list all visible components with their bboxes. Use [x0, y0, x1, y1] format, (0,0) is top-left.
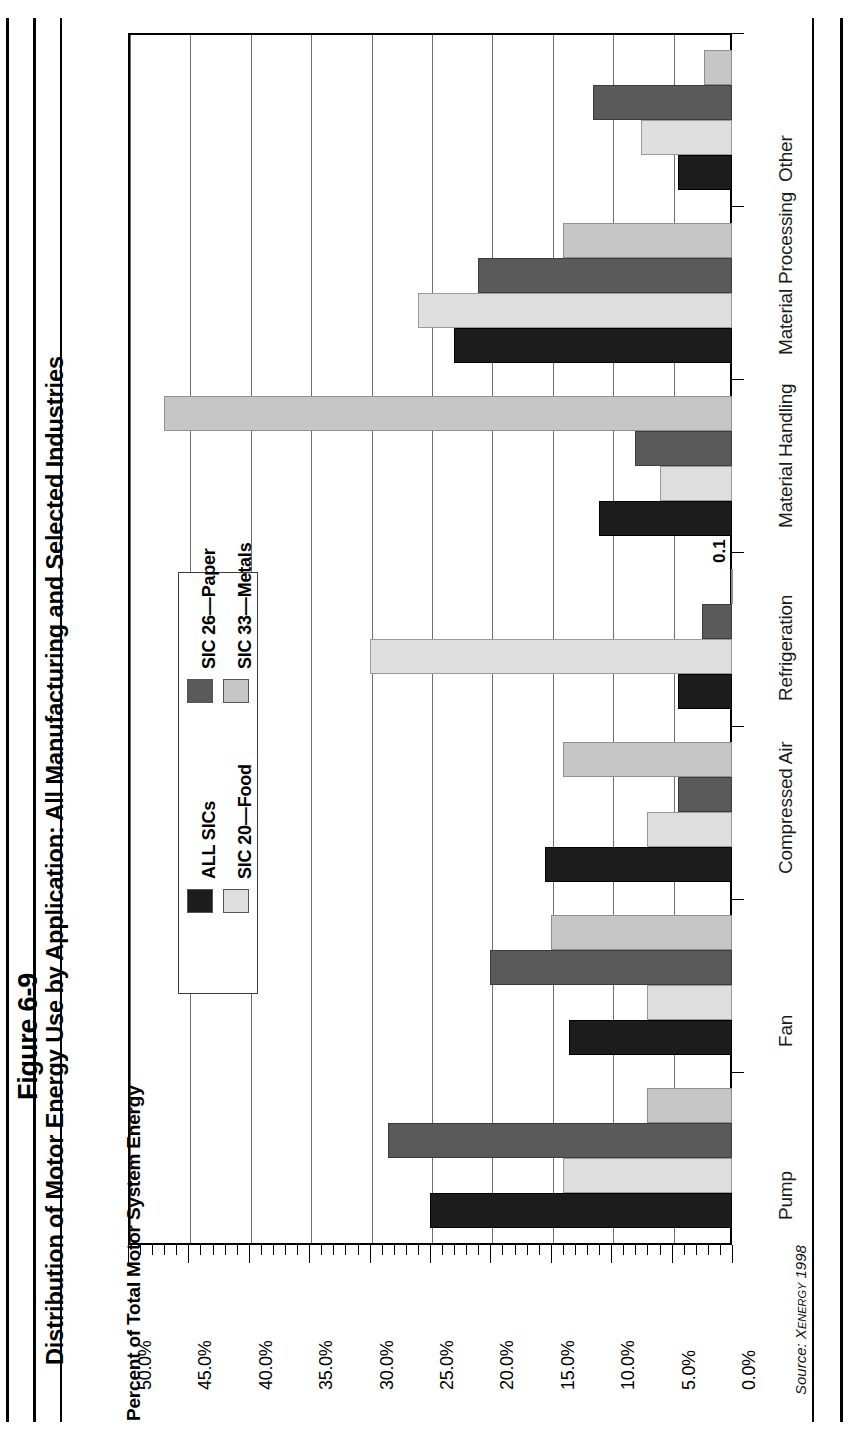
axis-tick-major — [672, 1245, 673, 1263]
value-axis-tick-label: 35.0% — [316, 1340, 337, 1390]
bar — [704, 50, 732, 85]
axis-tick-minor — [273, 1245, 274, 1255]
page-border-inner — [33, 18, 36, 1422]
bar — [678, 674, 732, 709]
axis-tick-minor — [635, 1245, 636, 1255]
legend-swatch — [223, 679, 249, 703]
category-boundary-tick — [732, 379, 744, 380]
category-label-compressed-air: Compressed Air — [775, 742, 797, 874]
bar — [478, 258, 732, 293]
axis-tick-minor — [647, 1245, 648, 1255]
legend-label: SIC 26—Paper — [199, 548, 220, 669]
axis-tick-major — [490, 1245, 491, 1263]
axis-tick-minor — [442, 1245, 443, 1255]
axis-tick-minor — [333, 1245, 334, 1255]
legend-swatch — [187, 889, 213, 913]
axis-tick-minor — [502, 1245, 503, 1255]
bar — [702, 604, 732, 639]
axis-tick-minor — [720, 1245, 721, 1255]
bar — [569, 1020, 732, 1055]
bar — [647, 1088, 732, 1123]
axis-tick-minor — [599, 1245, 600, 1255]
value-axis-tick-label: 10.0% — [618, 1340, 639, 1390]
axis-tick-minor — [297, 1245, 298, 1255]
axis-tick-minor — [466, 1245, 467, 1255]
axis-tick-minor — [478, 1245, 479, 1255]
category-label-material-processing: Material Processing — [775, 192, 797, 355]
bar — [641, 120, 732, 155]
bar — [418, 293, 732, 328]
axis-tick-minor — [345, 1245, 346, 1255]
axis-tick-major — [551, 1245, 552, 1263]
source-label: Source: — [792, 1339, 809, 1395]
page-border-right — [840, 18, 843, 1422]
axis-tick-minor — [382, 1245, 383, 1255]
axis-tick-minor — [527, 1245, 528, 1255]
category-boundary-tick — [732, 899, 744, 900]
figure-page: Figure 6-9 Distribution of Motor Energy … — [0, 0, 854, 1440]
axis-tick-minor — [213, 1245, 214, 1255]
axis-tick-major — [732, 1245, 733, 1263]
axis-tick-minor — [176, 1245, 177, 1255]
bar — [388, 1123, 732, 1158]
value-axis-tick-label: 30.0% — [377, 1340, 398, 1390]
gridline-500 — [130, 35, 131, 1243]
bar — [647, 812, 732, 847]
axis-tick-major — [611, 1245, 612, 1263]
figure-number: Figure 6-9 — [13, 973, 44, 1100]
bar — [370, 639, 732, 674]
source-divider-rule — [812, 18, 814, 1422]
bar — [647, 985, 732, 1020]
axis-tick-minor — [575, 1245, 576, 1255]
axis-tick-minor — [623, 1245, 624, 1255]
legend-swatch — [187, 679, 213, 703]
axis-tick-minor — [696, 1245, 697, 1255]
value-axis-tick-label: 20.0% — [497, 1340, 518, 1390]
category-boundary-tick — [732, 206, 744, 207]
bar — [660, 466, 732, 501]
axis-tick-minor — [200, 1245, 201, 1255]
category-label-fan: Fan — [775, 1015, 797, 1047]
axis-tick-major — [430, 1245, 431, 1263]
legend-label: SIC 33—Metals — [235, 543, 256, 669]
axis-tick-minor — [261, 1245, 262, 1255]
bar — [563, 223, 732, 258]
source-organization: Xenergy 1998 — [792, 1245, 809, 1339]
value-axis-tick-label: 25.0% — [437, 1340, 458, 1390]
axis-tick-major — [370, 1245, 371, 1263]
category-boundary-tick — [732, 1072, 744, 1073]
category-label-pump: Pump — [775, 1172, 797, 1221]
legend-swatch — [223, 889, 249, 913]
axis-tick-minor — [225, 1245, 226, 1255]
bar — [678, 777, 732, 812]
bar — [593, 85, 732, 120]
data-label-annotation: 0.1 — [710, 539, 730, 563]
axis-tick-minor — [515, 1245, 516, 1255]
bar — [563, 742, 732, 777]
bar — [545, 847, 732, 882]
axis-tick-minor — [539, 1245, 540, 1255]
category-boundary-tick — [732, 552, 744, 553]
chart-legend: ALL SICsSIC 20—FoodSIC 26—PaperSIC 33—Me… — [178, 572, 258, 994]
axis-tick-minor — [587, 1245, 588, 1255]
value-axis-tick-label: 0.0% — [739, 1350, 760, 1390]
legend-label: ALL SICs — [199, 801, 220, 879]
bar — [551, 915, 732, 950]
axis-tick-minor — [237, 1245, 238, 1255]
category-label-refrigeration: Refrigeration — [775, 595, 797, 701]
bar — [731, 569, 733, 604]
axis-tick-minor — [684, 1245, 685, 1255]
value-axis-tick-strip — [128, 1245, 732, 1271]
legend-label: SIC 20—Food — [235, 764, 256, 879]
value-axis-tick-label: 5.0% — [679, 1350, 700, 1390]
bar — [490, 950, 732, 985]
axis-tick-minor — [321, 1245, 322, 1255]
value-axis-tick-label: 15.0% — [558, 1340, 579, 1390]
value-axis-tick-label: 45.0% — [195, 1340, 216, 1390]
axis-tick-minor — [394, 1245, 395, 1255]
category-boundary-tick — [732, 726, 744, 727]
axis-tick-minor — [358, 1245, 359, 1255]
page-border-outer — [6, 18, 9, 1422]
axis-tick-minor — [563, 1245, 564, 1255]
axis-tick-minor — [406, 1245, 407, 1255]
